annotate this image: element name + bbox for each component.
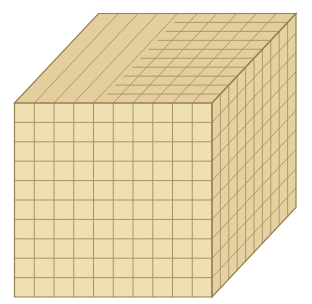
figure-canvas: Base ten block thousand cube A 10 by 10 …	[0, 0, 312, 304]
thousand-cube-illustration: Base ten block thousand cube A 10 by 10 …	[0, 0, 312, 304]
front-face	[15, 103, 213, 297]
